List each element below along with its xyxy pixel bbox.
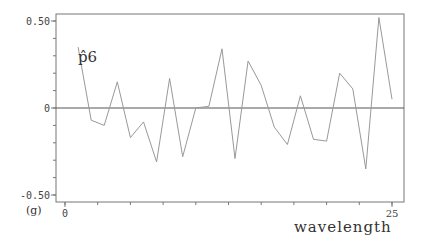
panel-label: (g) (26, 204, 42, 217)
y-tick-label: 0.50 (26, 16, 50, 27)
x-tick-label: 0 (62, 208, 68, 219)
series-label: p̂6 (78, 48, 97, 66)
x-axis-ticks: 025 (62, 202, 398, 219)
data-series-line (78, 18, 392, 169)
y-tick-label: -0.50 (20, 190, 50, 201)
x-axis-label: wavelength (294, 218, 392, 236)
y-axis-ticks: 0.500-0.50 (20, 16, 56, 201)
line-chart: 0.500-0.50 025 p̂6 (g) wavelength (0, 0, 422, 241)
y-tick-label: 0 (44, 103, 50, 114)
